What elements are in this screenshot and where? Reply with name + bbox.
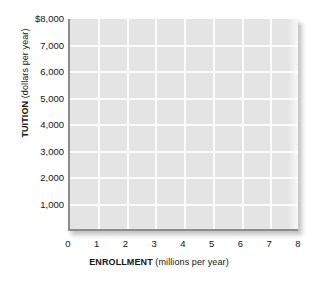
gridline-horizontal <box>70 177 298 179</box>
plot-area <box>68 19 298 231</box>
x-tick-label: 2 <box>115 238 137 249</box>
x-tick-label: 0 <box>57 238 79 249</box>
x-tick-label: 1 <box>86 238 108 249</box>
y-tick-label: 7,000 <box>22 41 64 51</box>
gridline-horizontal <box>70 98 298 100</box>
gridline-horizontal <box>70 151 298 153</box>
gridline-horizontal <box>70 204 298 206</box>
x-tick-label: 5 <box>201 238 223 249</box>
x-axis-title: ENROLLMENT (millions per year) <box>0 257 318 267</box>
x-axis-title-units: (millions per year) <box>153 257 229 267</box>
gridline-horizontal <box>70 45 298 47</box>
chart-figure: TUITION (dollars per year) $8,000 7,000 … <box>0 0 318 282</box>
y-tick-label: $8,000 <box>22 14 64 24</box>
y-tick-label: 3,000 <box>22 147 64 157</box>
gridlines <box>70 19 298 229</box>
x-tick-label: 4 <box>172 238 194 249</box>
x-tick-label: 7 <box>258 238 280 249</box>
y-tick-label: 6,000 <box>22 67 64 77</box>
x-axis-title-bold: ENROLLMENT <box>89 257 153 267</box>
y-tick-label: 5,000 <box>22 94 64 104</box>
y-tick-label: 4,000 <box>22 120 64 130</box>
x-axis-tick-labels: 0 1 2 3 4 5 6 7 8 <box>0 238 318 252</box>
y-tick-label: 1,000 <box>22 200 64 210</box>
gridline-horizontal <box>70 124 298 126</box>
gridline-horizontal <box>70 71 298 73</box>
x-tick-label: 6 <box>230 238 252 249</box>
x-tick-label: 3 <box>143 238 165 249</box>
x-tick-label: 8 <box>287 238 309 249</box>
y-tick-label: 2,000 <box>22 173 64 183</box>
